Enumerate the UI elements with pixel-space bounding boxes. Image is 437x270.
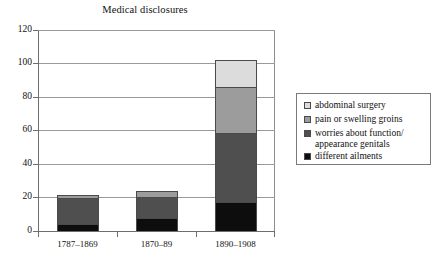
bar-segment-pain-swelling-groins (57, 195, 99, 198)
bar-segment-different-ailments (215, 202, 257, 231)
x-tick-1 (117, 232, 118, 237)
legend-label: pain or swelling groins (315, 114, 402, 125)
x-tick-2 (196, 232, 197, 237)
y-axis-label-20: 20 (4, 192, 32, 202)
legend-item-abdominal-surgery[interactable]: abdominal surgery (304, 100, 386, 111)
y-axis-label-120: 120 (4, 25, 32, 35)
y-tick-40 (33, 164, 38, 165)
bar-1870-89[interactable] (136, 192, 178, 231)
y-tick-120 (33, 30, 38, 31)
x-axis-label-1890-1908: 1890–1908 (196, 239, 275, 249)
y-axis-label-60: 60 (4, 125, 32, 135)
chart-legend: abdominal surgery pain or swelling groin… (296, 93, 431, 165)
legend-swatch-icon (304, 102, 311, 109)
bar-1890-1908[interactable] (215, 60, 257, 231)
y-axis-label-0: 0 (4, 226, 32, 236)
legend-swatch-icon (304, 153, 311, 160)
y-axis-label-80: 80 (4, 92, 32, 102)
chart-title: Medical disclosures (0, 4, 290, 15)
x-axis-label-1870-89: 1870–89 (117, 239, 196, 249)
y-tick-80 (33, 97, 38, 98)
bar-1787-1869[interactable] (57, 196, 99, 231)
y-axis-line (38, 30, 39, 232)
gridline-120 (39, 30, 275, 31)
legend-item-worries-about-function[interactable]: worries about function/ (304, 128, 404, 139)
plot-area: 120 100 80 60 40 20 0 1787–1869 1 (38, 30, 275, 231)
x-axis-line (38, 231, 275, 232)
bar-segment-worries-function (215, 133, 257, 202)
y-axis-label-100: 100 (4, 58, 32, 68)
chart-figure: Medical disclosures 120 100 80 60 40 20 … (0, 0, 437, 270)
bar-segment-different-ailments (57, 224, 99, 231)
plot-right-border (274, 30, 275, 232)
legend-label-continued: appearance genitals (315, 139, 390, 150)
bar-segment-abdominal-surgery (215, 60, 257, 87)
y-tick-100 (33, 63, 38, 64)
bar-segment-worries-function (57, 198, 99, 224)
bar-segment-pain-swelling-groins (136, 191, 178, 197)
bar-segment-pain-swelling-groins (215, 87, 257, 133)
y-axis-label-40: 40 (4, 159, 32, 169)
y-tick-60 (33, 130, 38, 131)
legend-item-pain-or-swelling-groins[interactable]: pain or swelling groins (304, 114, 402, 125)
y-tick-20 (33, 197, 38, 198)
legend-swatch-icon (304, 130, 311, 137)
bar-segment-different-ailments (136, 218, 178, 231)
bar-segment-worries-function (136, 197, 178, 218)
legend-label: different ailments (315, 151, 382, 162)
x-axis-label-1787-1869: 1787–1869 (38, 239, 117, 249)
x-tick-start (38, 232, 39, 237)
legend-label: abdominal surgery (315, 100, 386, 111)
legend-swatch-icon (304, 116, 311, 123)
legend-item-different-ailments[interactable]: different ailments (304, 151, 382, 162)
x-tick-end (274, 232, 275, 237)
legend-label: worries about function/ (315, 128, 404, 139)
